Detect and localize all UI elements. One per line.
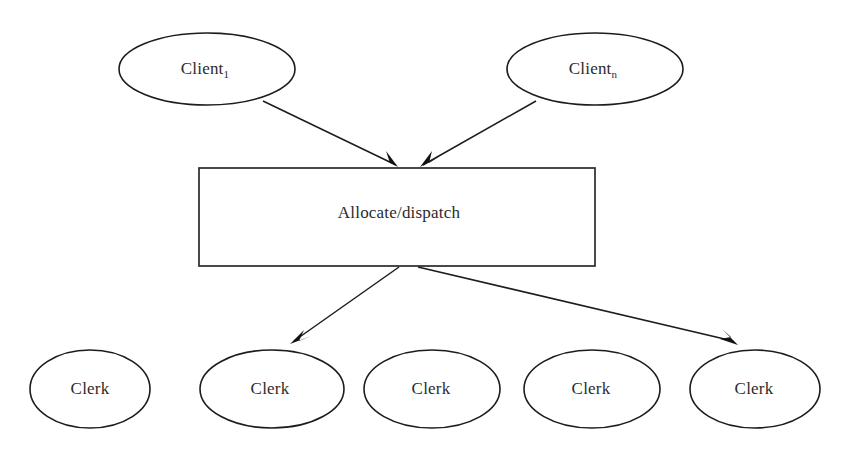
arrowhead-icon [420, 151, 440, 167]
node-label-clerk-4: Clerk [572, 379, 611, 398]
node-label-clerk-2: Clerk [251, 379, 290, 398]
edge-line [294, 267, 399, 341]
edge-clientn-to-dispatch [420, 101, 536, 167]
node-label-client-n: Clientn [569, 59, 618, 80]
edge-dispatch-to-clerk2 [290, 267, 399, 344]
node-clerk-2[interactable]: Clerk [200, 350, 344, 428]
node-label-clerk-3: Clerk [412, 379, 451, 398]
clerk-node-group: Clerk Clerk Clerk Clerk Clerk [30, 350, 820, 428]
edge-line [263, 101, 396, 165]
edge-line [423, 101, 536, 165]
node-clerk-5[interactable]: Clerk [690, 350, 820, 428]
diagram-canvas: Client1 Clientn Allocate/dispatch Clerk [0, 0, 850, 462]
edge-dispatch-to-clerk5 [418, 267, 738, 345]
node-label-subscript: 1 [224, 68, 230, 80]
node-client-1[interactable]: Client1 [119, 33, 295, 105]
node-client-n[interactable]: Clientn [507, 33, 683, 105]
arrowhead-icon [720, 329, 738, 345]
edge-line [418, 267, 733, 341]
node-clerk-4[interactable]: Clerk [524, 350, 660, 428]
edge-client1-to-dispatch [263, 101, 398, 167]
node-label-subscript: n [612, 68, 618, 80]
node-label-client-1: Client1 [181, 59, 229, 80]
node-label-clerk-5: Clerk [735, 379, 774, 398]
node-label-clerk-1: Clerk [71, 379, 110, 398]
node-label-allocate-dispatch: Allocate/dispatch [338, 203, 461, 222]
client-node-group: Client1 Clientn [119, 33, 683, 105]
node-allocate-dispatch[interactable]: Allocate/dispatch [199, 168, 595, 266]
node-clerk-3[interactable]: Clerk [364, 350, 500, 428]
node-clerk-1[interactable]: Clerk [30, 350, 150, 428]
